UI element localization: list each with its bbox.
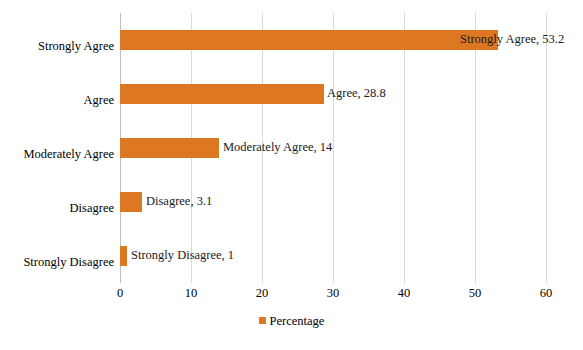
bar-agree[interactable]: [120, 84, 324, 104]
x-axis-tick-0: 0: [100, 286, 140, 301]
x-axis-tick-6: 60: [526, 286, 566, 301]
legend-swatch-icon: [259, 317, 266, 324]
bar-row: Moderately Agree, 14: [120, 121, 546, 175]
chart-legend: Percentage: [0, 313, 583, 329]
legend-item-percentage[interactable]: Percentage: [259, 313, 325, 329]
plot-area: Strongly Agree, 53.2 Agree, 28.8 Moderat…: [120, 13, 546, 283]
bar-chart: Strongly Agree Agree Moderately Agree Di…: [0, 0, 583, 350]
bar-moderately-agree[interactable]: [120, 138, 219, 158]
x-axis-tick-4: 40: [384, 286, 424, 301]
bar-disagree[interactable]: [120, 192, 142, 212]
x-axis-tick-labels: 0 10 20 30 40 50 60: [0, 286, 583, 304]
bar-value-label-1: Agree, 28.8: [327, 83, 386, 104]
bar-strongly-agree[interactable]: [120, 30, 498, 50]
bar-row: Strongly Disagree, 1: [120, 229, 546, 283]
bar-row: Agree, 28.8: [120, 67, 546, 121]
y-axis-label-1: Agree: [0, 93, 114, 107]
bar-value-label-3: Disagree, 3.1: [146, 191, 212, 212]
y-axis-label-2: Moderately Agree: [0, 147, 114, 161]
y-axis-label-0: Strongly Agree: [0, 39, 114, 53]
legend-label: Percentage: [270, 314, 325, 328]
bar-value-label-4: Strongly Disagree, 1: [131, 245, 234, 266]
x-axis-tick-5: 50: [455, 286, 495, 301]
x-axis-tick-2: 20: [242, 286, 282, 301]
x-axis-tick-3: 30: [313, 286, 353, 301]
x-axis-tick-1: 10: [171, 286, 211, 301]
bar-row: Strongly Agree, 53.2: [120, 13, 546, 67]
bar-row: Disagree, 3.1: [120, 175, 546, 229]
y-axis-category-labels: Strongly Agree Agree Moderately Agree Di…: [0, 13, 114, 283]
bar-value-label-0: Strongly Agree, 53.2: [460, 29, 564, 50]
bar-strongly-disagree[interactable]: [120, 246, 127, 266]
y-axis-label-3: Disagree: [0, 201, 114, 215]
y-axis-label-4: Strongly Disagree: [0, 255, 114, 269]
bar-value-label-2: Moderately Agree, 14: [223, 137, 332, 158]
gridline-60: [546, 13, 547, 283]
